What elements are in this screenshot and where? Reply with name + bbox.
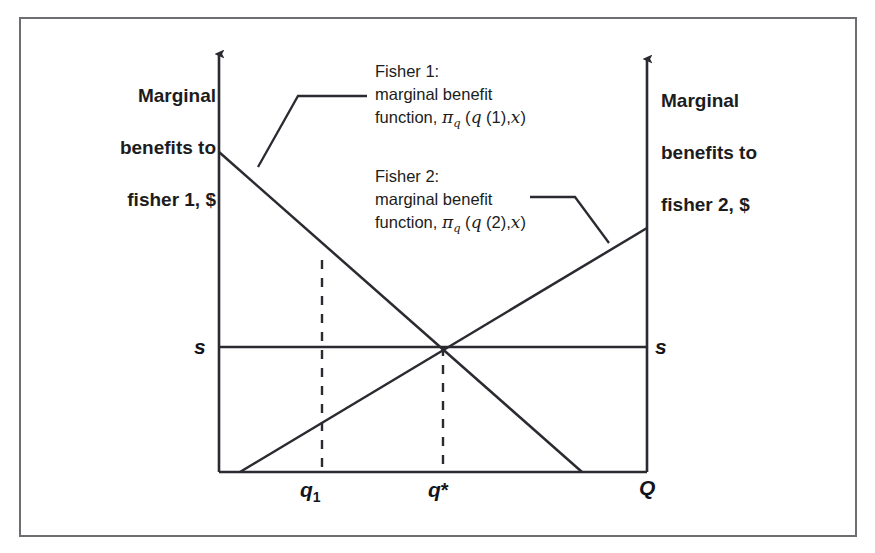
fisher1-callout-line1: Fisher 1: xyxy=(375,60,526,83)
fisher2-arg-open: ( xyxy=(461,213,471,231)
s-label-right: s xyxy=(655,335,667,359)
fisher1-x-symbol: x xyxy=(511,107,521,127)
fisher1-pi-subscript: q xyxy=(453,116,460,130)
fisher1-q-symbol: q xyxy=(471,107,482,127)
fisher1-function-prefix: function, xyxy=(375,108,442,126)
figure-root: Marginal benefits to fisher 1, $ Margina… xyxy=(0,0,875,553)
fisher2-pi-symbol: π xyxy=(442,212,453,232)
s-label-left: s xyxy=(194,335,206,359)
fisher2-leader-line xyxy=(530,197,609,243)
x-tick-q1: q1 xyxy=(300,478,321,505)
fisher2-function-prefix: function, xyxy=(375,213,442,231)
right-axis-title-line1: Marginal xyxy=(661,90,739,111)
fisher1-callout-line2: marginal benefit xyxy=(375,83,526,106)
fisher1-leader-line xyxy=(258,96,367,167)
left-axis-title: Marginal benefits to fisher 1, $ xyxy=(111,57,216,213)
x-tick-qstar-asterisk: * xyxy=(441,479,449,501)
fisher1-callout-line3: function, πq (q (1),x) xyxy=(375,106,526,135)
x-tick-qstar: q* xyxy=(428,478,449,502)
fisher2-callout-line2: marginal benefit xyxy=(375,188,526,211)
right-axis-title: Marginal benefits to fisher 2, $ xyxy=(661,62,791,218)
fisher2-arg-close: ) xyxy=(520,213,526,231)
x-tick-q1-subscript: 1 xyxy=(313,489,321,505)
fisher2-pi-subscript: q xyxy=(453,221,460,235)
x-tick-qstar-base: q xyxy=(428,478,441,501)
left-axis-title-line1: Marginal xyxy=(138,85,216,106)
left-axis-title-line2: benefits to xyxy=(120,137,216,158)
fisher1-arg-close: ) xyxy=(520,108,526,126)
fisher1-arg-open: ( xyxy=(461,108,471,126)
fisher2-callout: Fisher 2: marginal benefit function, πq … xyxy=(375,165,526,240)
fisher1-callout: Fisher 1: marginal benefit function, πq … xyxy=(375,60,526,135)
fisher2-callout-line1: Fisher 2: xyxy=(375,165,526,188)
fisher1-pi-symbol: π xyxy=(442,107,453,127)
fisher2-q-symbol: q xyxy=(471,212,482,232)
right-axis-title-line3: fisher 2, $ xyxy=(661,194,750,215)
right-axis-title-line2: benefits to xyxy=(661,142,757,163)
fisher1-index: (1) xyxy=(482,108,507,126)
fisher2-index: (2) xyxy=(482,213,507,231)
fisher2-callout-line3: function, πq (q (2),x) xyxy=(375,211,526,240)
x-tick-total-quota: Q xyxy=(639,476,655,500)
fisher2-x-symbol: x xyxy=(511,212,521,232)
left-axis-title-line3: fisher 1, $ xyxy=(127,189,216,210)
x-tick-q1-base: q xyxy=(300,478,313,501)
